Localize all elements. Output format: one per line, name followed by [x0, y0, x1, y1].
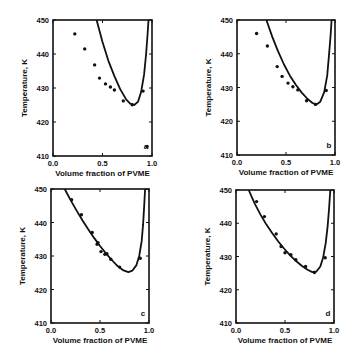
data-point [139, 257, 142, 260]
panel-a: 4104204304404500.00.51.0Volume fraction … [0, 0, 178, 180]
x-tick-label: 1.0 [329, 326, 339, 335]
chart-d: 4104204304404500.00.51.0Volume fraction … [178, 180, 356, 362]
data-point [266, 44, 269, 47]
data-point [141, 89, 144, 92]
data-point [314, 103, 317, 106]
y-axis-title: Temperature, K [204, 58, 213, 116]
y-tick-label: 440 [36, 50, 49, 59]
data-point [109, 258, 112, 261]
data-point [109, 85, 112, 88]
x-tick-label: 0.5 [281, 158, 291, 167]
data-points [255, 200, 327, 274]
data-points [73, 32, 149, 148]
data-point [255, 200, 258, 203]
panel-d: 4104204304404500.00.51.0Volume fraction … [178, 180, 356, 362]
data-point [286, 81, 289, 84]
spinodal-curve [65, 189, 145, 272]
plot-frame [237, 20, 335, 155]
x-axis: 0.00.51.0 [231, 190, 339, 335]
spinodal-curve [97, 20, 149, 105]
y-tick-label: 440 [34, 219, 47, 228]
x-tick-label: 0.0 [231, 326, 241, 335]
data-point [83, 47, 86, 50]
x-tick-label: 1.0 [144, 326, 154, 335]
data-point [131, 103, 134, 106]
data-point [122, 99, 125, 102]
x-tick-label: 0.5 [97, 159, 107, 168]
y-tick-label: 430 [36, 84, 49, 93]
data-point [98, 76, 101, 79]
data-point [276, 65, 279, 68]
data-point [263, 215, 266, 218]
x-axis-title: Volume fraction of PVME [53, 336, 148, 345]
panel-b: 4104204304404500.00.51.0Volume fraction … [178, 0, 356, 180]
y-tick-label: 450 [34, 185, 47, 194]
data-point [283, 251, 286, 254]
y-tick-label: 440 [219, 219, 232, 228]
data-point [275, 232, 278, 235]
data-point [291, 85, 294, 88]
data-point [91, 231, 94, 234]
x-tick-label: 0.0 [48, 159, 58, 168]
data-point [279, 245, 282, 248]
data-point [324, 256, 327, 259]
panel-label: d [326, 309, 331, 318]
y-tick-label: 430 [34, 252, 47, 261]
data-point [305, 99, 308, 102]
data-point [105, 252, 108, 255]
data-point [280, 75, 283, 78]
y-tick-label: 450 [220, 16, 233, 25]
panel-label: a [144, 142, 149, 151]
plot-frame [236, 190, 334, 323]
data-points [255, 32, 328, 106]
x-axis-title: Volume fraction of PVME [55, 169, 150, 178]
y-tick-label: 430 [220, 84, 233, 93]
data-point [70, 198, 73, 201]
data-point [313, 271, 316, 274]
chart-b: 4104204304404500.00.51.0Volume fraction … [178, 0, 356, 180]
y-axis-title: Temperature, K [20, 59, 29, 117]
y-tick-label: 450 [36, 16, 49, 25]
data-point [118, 265, 121, 268]
data-point [104, 82, 107, 85]
x-tick-label: 0.0 [46, 326, 56, 335]
y-tick-label: 420 [220, 117, 233, 126]
x-tick-label: 0.0 [232, 158, 242, 167]
x-tick-label: 0.5 [95, 326, 105, 335]
y-tick-label: 420 [34, 286, 47, 295]
y-tick-label: 440 [220, 50, 233, 59]
data-point [294, 258, 297, 261]
data-point [73, 32, 76, 35]
y-tick-label: 450 [219, 186, 232, 195]
y-axis: 410420430440450 [36, 16, 152, 161]
data-point [296, 88, 299, 91]
data-point [96, 241, 99, 244]
data-point [93, 63, 96, 66]
y-tick-label: 420 [36, 118, 49, 127]
y-axis-title: Temperature, K [18, 227, 27, 285]
data-point [80, 213, 83, 216]
x-axis-title: Volume fraction of PVME [239, 168, 334, 177]
x-tick-label: 1.0 [147, 159, 157, 168]
x-tick-label: 0.5 [280, 326, 290, 335]
panel-label: c [141, 309, 146, 318]
spinodal-curve [266, 20, 331, 104]
y-tick-label: 420 [219, 286, 232, 295]
y-axis-title: Temperature, K [203, 227, 212, 285]
x-tick-label: 1.0 [330, 158, 340, 167]
data-points [70, 198, 142, 269]
x-axis-title: Volume fraction of PVME [238, 336, 333, 345]
panel-label: b [327, 141, 332, 150]
chart-c: 4104204304404500.00.51.0Volume fraction … [0, 180, 178, 362]
data-point [289, 253, 292, 256]
data-point [113, 88, 116, 91]
plot-frame [51, 189, 149, 323]
data-point [255, 32, 258, 35]
spinodal-curve [249, 190, 331, 272]
y-tick-label: 430 [219, 253, 232, 262]
data-point [99, 250, 102, 253]
panel-c: 4104204304404500.00.51.0Volume fraction … [0, 180, 178, 362]
data-point [325, 89, 328, 92]
data-point [304, 265, 307, 268]
chart-a: 4104204304404500.00.51.0Volume fraction … [0, 0, 178, 180]
